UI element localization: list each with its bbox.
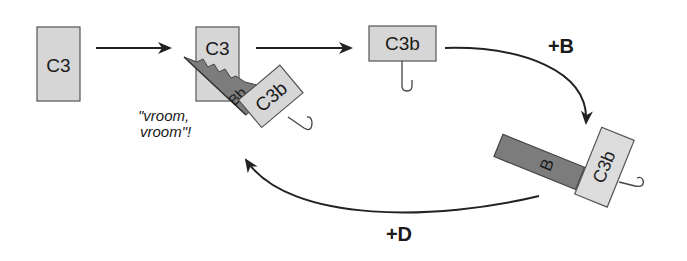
c3b-bound-box: C3b: [239, 65, 304, 127]
plus-b-label: +B: [548, 35, 574, 57]
vroom-line1: "vroom,: [138, 107, 189, 124]
b-factor-box: B: [494, 134, 585, 189]
c3-initial-label: C3: [46, 55, 70, 76]
thioester-hook-icon: [288, 117, 312, 130]
thioester-hook-icon: [619, 177, 643, 186]
vroom-line2: vroom"!: [140, 123, 192, 140]
arrow-plus-b: [445, 48, 586, 123]
c3b-free-box: C3b: [369, 26, 436, 61]
c3b-free-label: C3b: [385, 33, 420, 54]
thioester-hook-icon: [402, 61, 412, 91]
complement-cycle-diagram: C3 C3 Bb C3b "vroom, vroom"! C3b +B B C3…: [0, 0, 687, 261]
arrow-plus-d: [246, 160, 539, 212]
plus-d-label: +D: [386, 223, 412, 245]
c3-initial-box: C3: [37, 27, 80, 101]
c3-complex-label: C3: [205, 38, 229, 59]
